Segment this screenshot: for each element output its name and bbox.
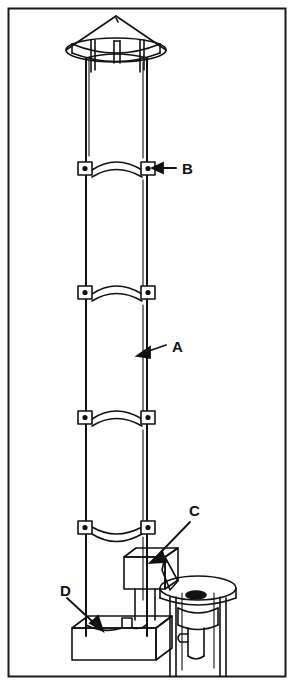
table-center-boss xyxy=(186,591,206,599)
chute-box-top xyxy=(124,548,178,557)
valve-handle-knob xyxy=(178,634,188,642)
valve-body-top-arc xyxy=(178,608,218,613)
callout-label-b: B xyxy=(182,160,193,177)
clamp-band-bottom-arc xyxy=(92,170,142,178)
clamp-band-bottom-arc xyxy=(92,294,142,302)
valve-body-bottom-arc xyxy=(178,625,218,630)
clamp-bolt-right xyxy=(146,291,150,295)
clamp-bolt-right xyxy=(146,167,150,171)
callout-label-c: C xyxy=(189,502,200,519)
clamp-bolt-left xyxy=(83,416,87,420)
base-front-face xyxy=(72,628,156,660)
band-clamp xyxy=(78,286,155,301)
clamp-band-bottom-arc xyxy=(92,534,142,542)
callout-leader-d xyxy=(67,598,93,622)
band-clamp xyxy=(78,162,155,177)
technical-diagram: B A C D xyxy=(0,0,295,686)
clamp-bolt-left xyxy=(83,167,87,171)
clamp-bolt-right xyxy=(146,416,150,420)
clamp-bolt-left xyxy=(83,291,87,295)
figure-container: B A C D xyxy=(0,0,295,686)
rain-cap xyxy=(66,16,166,72)
callout-label-d: D xyxy=(60,582,71,599)
clamp-bolt-right xyxy=(146,526,150,530)
callout-label-a: A xyxy=(172,338,183,355)
valve-outlet-bottom xyxy=(188,656,204,659)
band-clamp xyxy=(78,411,155,426)
cap-cone-inner-edge xyxy=(116,18,118,22)
cap-brim-front-band xyxy=(72,44,160,53)
clamp-band-top-arc xyxy=(92,527,142,534)
clamp-bolt-left xyxy=(83,526,87,530)
clamp-band-bottom-arc xyxy=(92,419,142,427)
